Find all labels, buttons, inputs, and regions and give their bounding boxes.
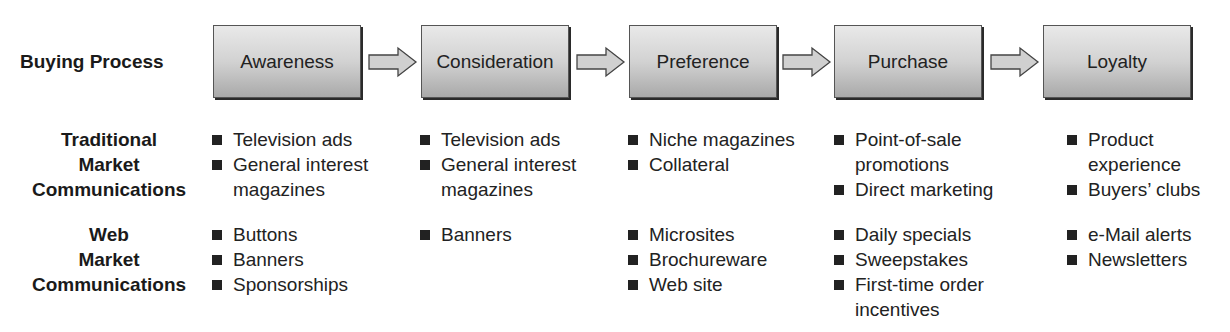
list-item: e-Mail alerts	[1067, 222, 1227, 247]
list-item: Collateral	[628, 152, 828, 177]
row-label-traditional: Traditional Market Communications	[20, 127, 198, 202]
list-item: General interest magazines	[420, 152, 610, 202]
row-label-web: Web Market Communications	[20, 222, 198, 297]
list-item: General interest magazines	[212, 152, 402, 202]
web-purchase-list: Daily specials Sweepstakes First-time or…	[834, 222, 1024, 322]
row-label-buying-process: Buying Process	[20, 49, 190, 74]
stage-purchase: Purchase	[834, 25, 982, 98]
web-consideration-list: Banners	[420, 222, 610, 247]
web-loyalty-list: e-Mail alerts Newsletters	[1067, 222, 1227, 272]
list-item: Web site	[628, 272, 828, 297]
list-item: Microsites	[628, 222, 828, 247]
right-arrow-icon	[782, 46, 832, 78]
list-item: Sponsorships	[212, 272, 402, 297]
list-item: Newsletters	[1067, 247, 1227, 272]
list-item: Daily specials	[834, 222, 1024, 247]
right-arrow-icon	[576, 46, 626, 78]
traditional-awareness-list: Television ads General interest magazine…	[212, 127, 402, 202]
list-item: Product experience	[1067, 127, 1217, 177]
list-item: Niche magazines	[628, 127, 828, 152]
list-item: Banners	[420, 222, 610, 247]
list-item: Sweepstakes	[834, 247, 1024, 272]
list-item: Buyers’ clubs	[1067, 177, 1217, 202]
stage-loyalty: Loyalty	[1043, 25, 1191, 98]
list-item: Television ads	[212, 127, 402, 152]
traditional-preference-list: Niche magazines Collateral	[628, 127, 828, 177]
list-item: Television ads	[420, 127, 610, 152]
traditional-loyalty-list: Product experience Buyers’ clubs	[1067, 127, 1217, 202]
list-item: Point-of-sale promotions	[834, 127, 1024, 177]
right-arrow-icon	[990, 46, 1040, 78]
web-awareness-list: Buttons Banners Sponsorships	[212, 222, 402, 297]
traditional-purchase-list: Point-of-sale promotions Direct marketin…	[834, 127, 1024, 202]
list-item: Brochureware	[628, 247, 828, 272]
list-item: First-time order incentives	[834, 272, 1024, 322]
list-item: Direct marketing	[834, 177, 1024, 202]
stage-awareness: Awareness	[213, 25, 361, 98]
traditional-consideration-list: Television ads General interest magazine…	[420, 127, 610, 202]
stage-preference: Preference	[629, 25, 777, 98]
right-arrow-icon	[368, 46, 418, 78]
stage-consideration: Consideration	[421, 25, 569, 98]
list-item: Banners	[212, 247, 402, 272]
web-preference-list: Microsites Brochureware Web site	[628, 222, 828, 297]
list-item: Buttons	[212, 222, 402, 247]
